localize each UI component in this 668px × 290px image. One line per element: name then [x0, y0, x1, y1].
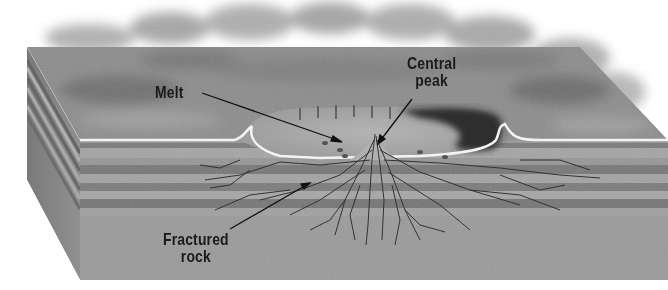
crater-block-diagram: [0, 0, 668, 290]
label-central-peak: Central peak: [407, 55, 456, 89]
label-fractured-rock-line1: Fractured: [163, 231, 229, 248]
label-melt-text: Melt: [155, 84, 184, 101]
label-fractured-rock-line2: rock: [163, 248, 229, 265]
label-melt: Melt: [155, 84, 184, 101]
label-central-peak-line2: peak: [407, 72, 456, 89]
label-central-peak-line1: Central: [407, 55, 456, 72]
label-fractured-rock: Fractured rock: [163, 231, 229, 265]
